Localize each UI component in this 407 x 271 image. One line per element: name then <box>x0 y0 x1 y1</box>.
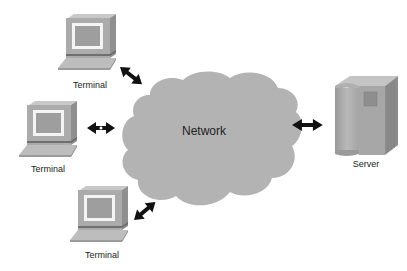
terminal-top-label: Terminal <box>60 80 120 90</box>
arrow-terminal-middle-network <box>87 122 115 134</box>
terminal-bottom-label: Terminal <box>72 250 132 260</box>
terminal-top-icon <box>58 14 116 70</box>
terminal-middle-icon <box>19 101 77 157</box>
server-icon <box>335 76 398 156</box>
server-label: Server <box>336 159 396 169</box>
network-cloud-icon <box>122 71 301 205</box>
terminal-bottom-icon <box>70 186 128 242</box>
arrow-terminal-bottom-network <box>130 197 159 224</box>
network-label: Network <box>182 124 226 138</box>
terminal-middle-label: Terminal <box>18 164 78 174</box>
arrow-terminal-top-network <box>116 62 145 89</box>
